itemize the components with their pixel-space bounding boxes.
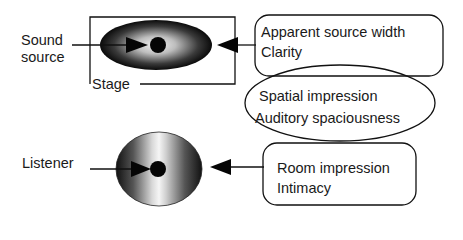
box-top-arrow bbox=[217, 37, 256, 53]
box-bottom-line1: Room impression bbox=[277, 159, 390, 178]
box-top-line1: Apparent source width bbox=[261, 23, 405, 42]
listener-label: Listener bbox=[22, 154, 74, 173]
box-top-line2: Clarity bbox=[261, 43, 302, 62]
box-bottom-line2: Intimacy bbox=[277, 179, 331, 198]
box-bottom-arrow bbox=[210, 159, 264, 175]
stage-label: Stage bbox=[92, 75, 130, 94]
ellipse-middle-line2: Auditory spaciousness bbox=[255, 109, 400, 128]
sound-source-label-line2: source bbox=[21, 48, 65, 67]
ellipse-middle-line1: Spatial impression bbox=[259, 87, 377, 106]
listener-dot bbox=[150, 161, 166, 177]
sound-source-dot bbox=[150, 37, 166, 53]
